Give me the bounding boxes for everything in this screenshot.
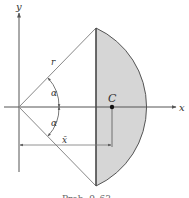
radius-label: r — [51, 57, 56, 67]
x-axis-label: x — [179, 102, 185, 113]
y-axis-label: y — [15, 1, 22, 12]
xbar-label: x̄ — [62, 135, 67, 145]
centroid-label: C — [108, 92, 117, 105]
centroid-point — [110, 105, 114, 109]
segment-centroid-diagram: y x r α α C x̄ Prob. 9–63 — [0, 0, 189, 198]
upper-angle-label: α — [51, 88, 57, 98]
lower-angle-label: α — [51, 118, 57, 128]
figure-caption: Prob. 9–63 — [62, 194, 111, 198]
